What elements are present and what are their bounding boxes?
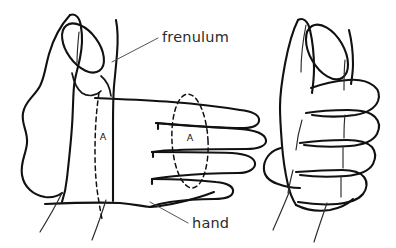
section-a-left-label: A <box>100 131 107 142</box>
hand-label: hand <box>192 215 229 231</box>
hand-anatomy-line-drawing: A A <box>0 0 396 248</box>
figure-container: A A <box>0 0 396 248</box>
frenulum-label: frenulum <box>162 29 229 45</box>
section-a-middle-label: A <box>187 132 194 143</box>
